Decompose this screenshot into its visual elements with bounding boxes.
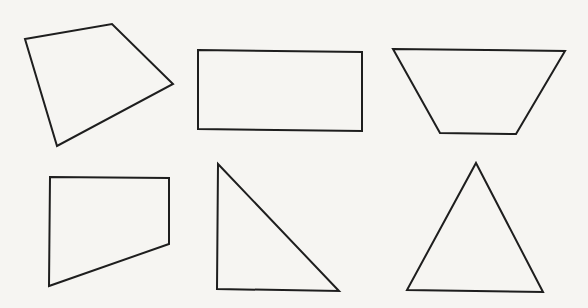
equilateral-triangle-shape (407, 163, 543, 292)
shapes-figure (0, 0, 588, 308)
shapes-svg (0, 0, 588, 308)
rectangle-shape (198, 50, 362, 131)
right-triangle-shape (217, 164, 339, 291)
irregular-quadrilateral-shape (25, 24, 173, 146)
isosceles-trapezoid-shape (393, 49, 565, 134)
right-trapezoid-shape (49, 177, 169, 286)
